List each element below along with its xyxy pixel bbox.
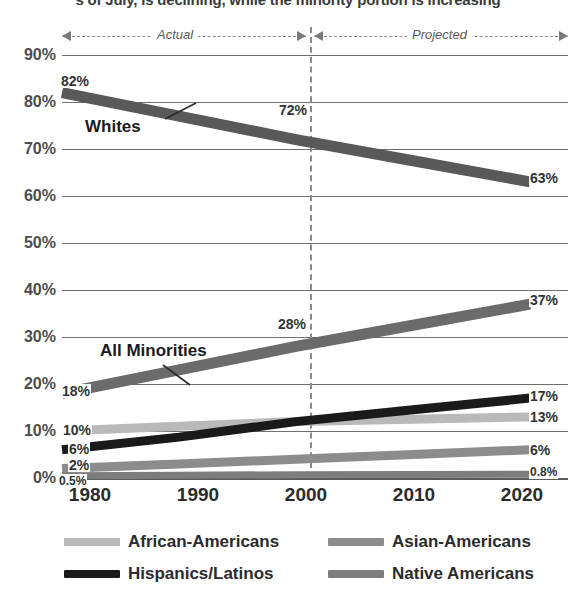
xtick-label-2020: 2020 xyxy=(482,484,562,506)
legend-swatch-african-americans xyxy=(64,538,120,546)
value-label-african-2020: 13% xyxy=(529,410,559,424)
value-label-whites-1980: 82% xyxy=(60,74,90,88)
xtick-label-1980: 1980 xyxy=(50,484,130,506)
projected-label: Projected xyxy=(407,27,472,42)
chart-legend: African-Americans Asian-Americans Hispan… xyxy=(0,528,576,600)
legend-swatch-native-americans xyxy=(328,570,384,578)
legend-item-african-americans[interactable]: African-Americans xyxy=(64,532,279,552)
ytick-label-50: 50% xyxy=(0,234,56,252)
legend-label-hispanics-latinos: Hispanics/Latinos xyxy=(128,564,273,584)
page-headline: s of July, is declining, while the minor… xyxy=(0,0,576,8)
legend-label-asian-americans: Asian-Americans xyxy=(392,532,531,552)
ytick-label-0: 0% xyxy=(0,469,56,487)
annotation-whites: Whites xyxy=(85,117,141,137)
value-label-asian-2020: 6% xyxy=(529,443,551,457)
ytick-label-20: 20% xyxy=(0,375,56,393)
value-label-minorities-2020: 37% xyxy=(529,293,559,307)
gridline-30 xyxy=(62,337,568,338)
ytick-label-90: 90% xyxy=(0,46,56,64)
gridline-60 xyxy=(62,196,568,197)
xtick-label-2000: 2000 xyxy=(266,484,346,506)
gridline-20 xyxy=(62,384,568,385)
projection-divider xyxy=(310,27,312,478)
legend-swatch-hispanics-latinos xyxy=(64,570,120,578)
axis-baseline xyxy=(62,478,568,480)
actual-right-arrow-icon xyxy=(297,31,306,41)
gridline-90 xyxy=(62,55,568,56)
value-label-hispanics-1980: 6% xyxy=(68,442,90,456)
gridline-10 xyxy=(62,431,568,432)
legend-item-hispanics-latinos[interactable]: Hispanics/Latinos xyxy=(64,564,273,584)
value-label-native-2020: 0.8% xyxy=(529,465,558,479)
projected-left-arrow-icon xyxy=(314,31,323,41)
ytick-label-80: 80% xyxy=(0,93,56,111)
chart-page: s of July, is declining, while the minor… xyxy=(0,0,576,603)
xtick-label-1990: 1990 xyxy=(158,484,238,506)
value-label-minorities-1980: 18% xyxy=(61,384,91,398)
xtick-label-2010: 2010 xyxy=(374,484,454,506)
legend-label-african-americans: African-Americans xyxy=(128,532,279,552)
period-band: Actual Projected xyxy=(62,27,568,51)
gridline-50 xyxy=(62,243,568,244)
legend-item-native-americans[interactable]: Native Americans xyxy=(328,564,534,584)
ytick-label-40: 40% xyxy=(0,281,56,299)
ytick-label-10: 10% xyxy=(0,422,56,440)
legend-swatch-asian-americans xyxy=(328,538,384,546)
legend-label-native-americans: Native Americans xyxy=(392,564,534,584)
ytick-label-60: 60% xyxy=(0,187,56,205)
ytick-label-30: 30% xyxy=(0,328,56,346)
value-label-minorities-2000: 28% xyxy=(277,317,307,331)
legend-item-asian-americans[interactable]: Asian-Americans xyxy=(328,532,531,552)
actual-label: Actual xyxy=(152,27,198,42)
actual-left-arrow-icon xyxy=(62,31,71,41)
gridline-40 xyxy=(62,290,568,291)
value-label-whites-2020: 63% xyxy=(529,171,559,185)
value-label-hispanics-2020: 17% xyxy=(529,389,559,403)
annotation-all-minorities: All Minorities xyxy=(100,341,207,361)
projected-right-arrow-icon xyxy=(559,31,568,41)
value-label-whites-2000: 72% xyxy=(278,103,308,117)
gridline-70 xyxy=(62,149,568,150)
ytick-label-70: 70% xyxy=(0,140,56,158)
value-label-asian-1980: 2% xyxy=(68,458,90,472)
gridline-80 xyxy=(62,102,568,103)
value-label-african-1980: 10% xyxy=(62,423,92,437)
